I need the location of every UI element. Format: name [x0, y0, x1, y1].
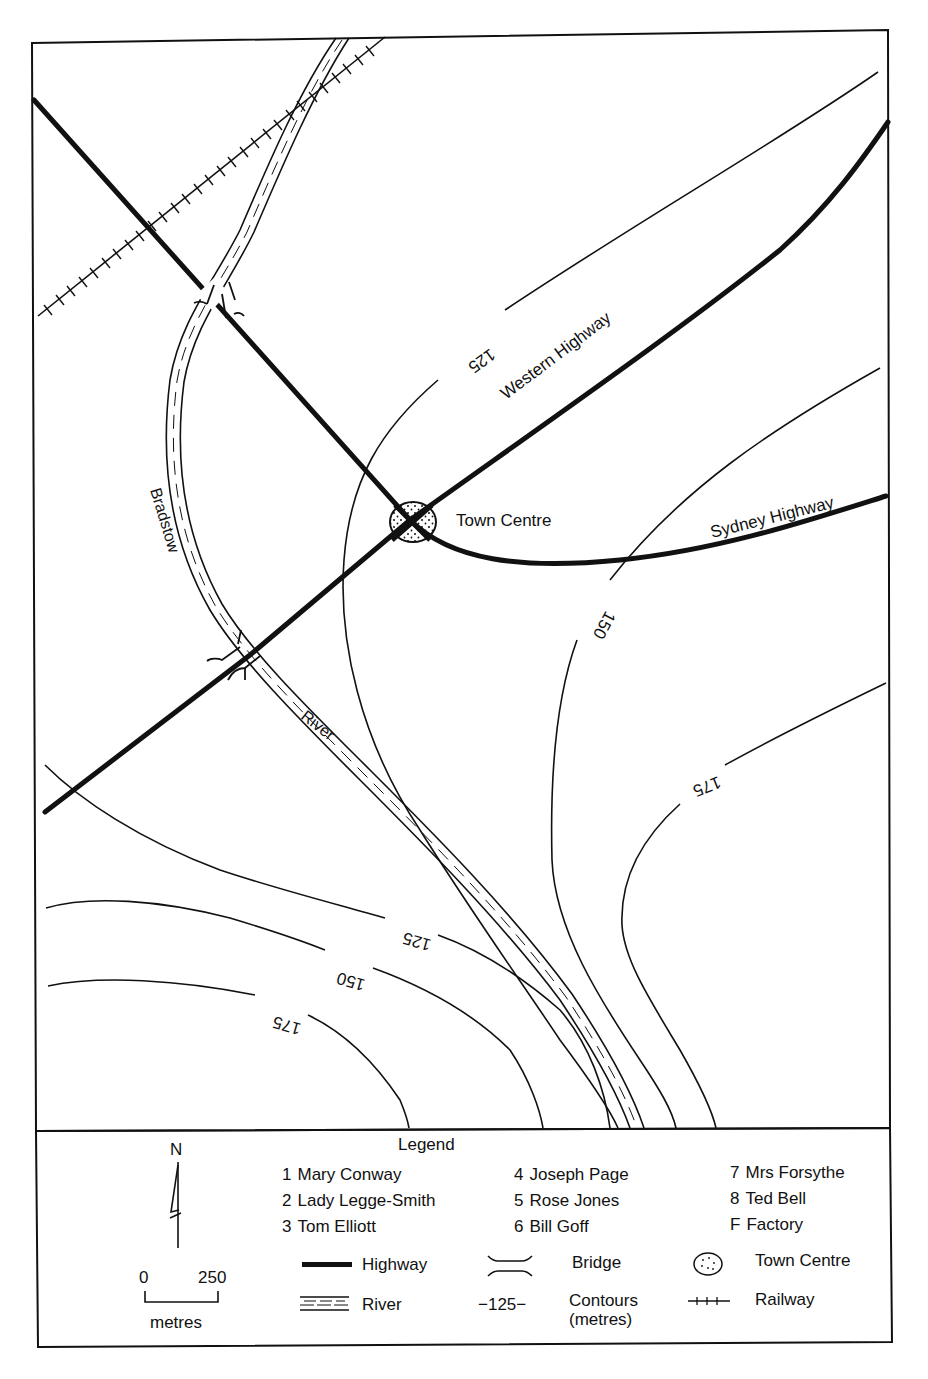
legend-people-list: 1Mary Conway 2Lady Legge-Smith 3Tom Elli… — [282, 1163, 845, 1236]
contour-label-175-bottom: 175 — [271, 1012, 304, 1038]
north-arrow-icon — [170, 1162, 181, 1248]
legend-contours-label: Contours — [569, 1291, 638, 1310]
map-frame — [32, 30, 890, 1131]
town-centre-symbol-icon — [694, 1253, 722, 1275]
scale-start: 0 — [139, 1268, 148, 1287]
northwest-highway — [34, 100, 410, 520]
scale-end: 250 — [198, 1268, 226, 1287]
legend-person-8: 8Ted Bell — [730, 1189, 806, 1208]
legend-person-2: 2Lady Legge-Smith — [282, 1191, 435, 1210]
legend-person-1: 1Mary Conway — [282, 1165, 402, 1184]
legend-river-label: River — [362, 1295, 402, 1314]
western-highway — [45, 122, 888, 812]
railway-symbol-icon — [688, 1297, 730, 1305]
north-label: N — [170, 1140, 182, 1159]
legend-person-6: 6Bill Goff — [514, 1217, 589, 1236]
contour-label-125-bottom: 125 — [401, 928, 434, 954]
scale-bar — [145, 1291, 218, 1302]
town-centre-label: Town Centre — [456, 511, 551, 530]
legend-highway-label: Highway — [362, 1255, 428, 1274]
river-symbol-icon — [300, 1297, 349, 1310]
bridge-symbol-icon — [488, 1256, 532, 1276]
legend-bridge-label: Bridge — [572, 1253, 621, 1272]
legend-railway-label: Railway — [755, 1290, 815, 1309]
contour-lines — [45, 72, 886, 1128]
contour-label-150-right: 150 — [589, 608, 619, 642]
legend-person-3: 3Tom Elliott — [282, 1217, 376, 1236]
contour-label-125-top: 125 — [465, 345, 499, 377]
scale-unit: metres — [150, 1313, 202, 1332]
contour-label-150-bottom: 150 — [335, 968, 368, 994]
legend-person-7: 7Mrs Forsythe — [730, 1163, 845, 1182]
map-figure: /* ticks drawn statically below */ — [0, 0, 928, 1379]
legend-factory: FFactory — [730, 1215, 804, 1234]
legend-town-centre-label: Town Centre — [755, 1251, 850, 1270]
contour-label-175-right: 175 — [690, 772, 723, 800]
town-centre-marker — [390, 502, 436, 542]
railway-line: /* ticks drawn statically below */ — [38, 37, 385, 316]
legend-person-5: 5Rose Jones — [514, 1191, 619, 1210]
legend-contours-unit: (metres) — [569, 1310, 632, 1329]
bradstow-river — [166, 38, 644, 1128]
legend-title: Legend — [398, 1135, 455, 1154]
legend-person-4: 4Joseph Page — [514, 1165, 629, 1184]
highways — [34, 100, 888, 812]
highway-symbol-icon — [302, 1262, 352, 1267]
contour-symbol-icon: −125− — [478, 1295, 526, 1314]
